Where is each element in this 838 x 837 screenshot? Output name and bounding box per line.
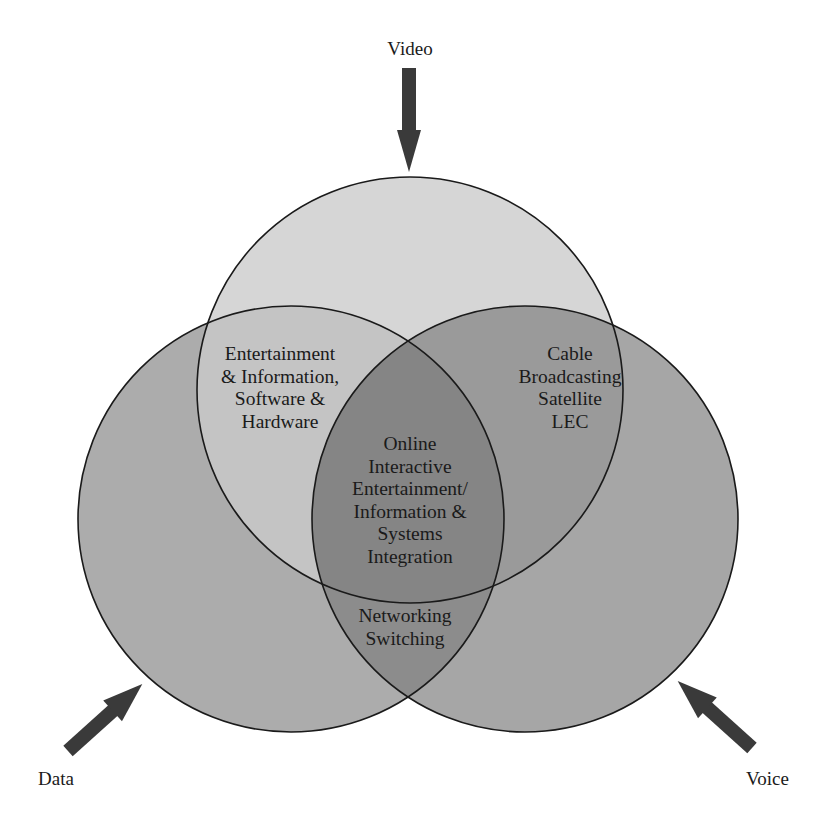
label-voice: Voice [746,768,806,790]
text-line: Online [335,433,485,456]
text-line: Information & [335,501,485,524]
text-line: Broadcasting [500,366,640,389]
arrow-video-icon [397,68,421,172]
label-data: Data [38,768,98,790]
text-line: Software & [200,388,360,411]
label-video: Video [380,38,440,60]
region-text-data-voice: Networking Switching [345,605,465,650]
text-line: Satellite [500,388,640,411]
arrow-data-icon [59,674,152,762]
region-text-video-data: Entertainment & Information, Software & … [200,343,360,433]
text-line: Hardware [200,411,360,434]
text-line: Entertainment/ [335,478,485,501]
text-line: LEC [500,411,640,434]
text-line: Switching [345,628,465,651]
text-line: Entertainment [200,343,360,366]
text-line: & Information, [200,366,360,389]
text-line: Interactive [335,456,485,479]
text-line: Integration [335,546,485,569]
arrow-voice-icon [668,671,761,759]
region-text-all: Online Interactive Entertainment/ Inform… [335,433,485,568]
text-line: Systems [335,523,485,546]
text-line: Networking [345,605,465,628]
venn-diagram [0,0,838,837]
text-line: Cable [500,343,640,366]
region-text-video-voice: Cable Broadcasting Satellite LEC [500,343,640,433]
